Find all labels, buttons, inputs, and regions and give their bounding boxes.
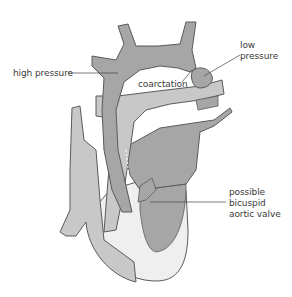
label-valve-line2: bicuspid (229, 198, 266, 209)
label-valve-line3: aortic valve (229, 209, 281, 220)
label-valve-line1: possible (229, 187, 265, 198)
label-low-pressure-line1: low (240, 40, 255, 51)
label-high-pressure: high pressure (13, 68, 73, 79)
pointer-low-pressure (204, 55, 240, 76)
label-low-pressure-line2: pressure (240, 51, 278, 62)
post-coarctation-bulge (191, 68, 212, 88)
left-atrium (124, 108, 232, 190)
label-coarctation: coarctation (138, 79, 188, 90)
